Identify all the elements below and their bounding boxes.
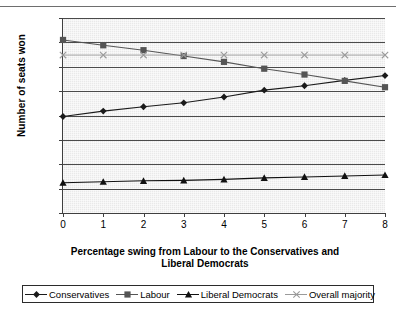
legend-item-labour: Labour	[116, 289, 170, 300]
diamond-marker	[301, 82, 308, 89]
x-tick-label: 2	[132, 219, 156, 230]
legend-label: Overall majority	[309, 289, 375, 300]
legend-label: Conservatives	[49, 289, 109, 300]
series-conservatives	[60, 72, 389, 120]
x-tick-label: 1	[91, 219, 115, 230]
x-tick-mark	[305, 213, 306, 217]
square-marker	[342, 78, 348, 84]
triangle-marker	[185, 291, 192, 298]
diamond-marker	[261, 87, 268, 94]
series-layer	[63, 18, 385, 213]
chart-screenshot: Number of seats won 05010015020025030035…	[0, 0, 396, 320]
x-tick-mark	[224, 213, 225, 217]
x-tick-mark	[345, 213, 346, 217]
square-marker	[100, 42, 106, 48]
x-tick-label: 3	[172, 219, 196, 230]
diamond-marker	[60, 113, 67, 120]
x-tick-mark	[63, 213, 64, 217]
x-axis-title-line1: Percentage swing from Labour to the Cons…	[71, 246, 339, 257]
diamond-marker	[100, 108, 107, 115]
x-tick-mark	[144, 213, 145, 217]
x-tick-mark	[103, 213, 104, 217]
top-divider	[0, 6, 396, 7]
y-axis-title: Number of seats won	[16, 16, 27, 156]
square-marker	[301, 71, 307, 77]
diamond-marker	[382, 72, 389, 79]
legend-label: Liberal Democrats	[201, 289, 278, 300]
legend-key-marker	[32, 290, 41, 299]
legend-item-liberal-democrats: Liberal Democrats	[177, 289, 278, 300]
x-marker	[285, 289, 307, 299]
legend-key-marker	[292, 290, 301, 299]
legend-key-marker	[123, 290, 132, 299]
x-tick-mark	[184, 213, 185, 217]
square-marker	[60, 37, 66, 43]
plot-area: 050100150200250300350400 012345678	[62, 18, 385, 214]
square-marker	[125, 291, 131, 297]
x-tick-mark	[385, 213, 386, 217]
diamond-marker	[180, 99, 187, 106]
series-labour	[60, 37, 388, 90]
x-tick-label: 8	[373, 219, 396, 230]
square-marker	[382, 84, 388, 90]
triangle-marker	[177, 289, 199, 299]
x-tick-label: 0	[51, 219, 75, 230]
square-marker	[261, 66, 267, 72]
square-marker	[116, 289, 138, 299]
series-overall-majority	[60, 52, 388, 58]
x-tick-label: 6	[293, 219, 317, 230]
x-tick-label: 7	[333, 219, 357, 230]
square-marker	[181, 53, 187, 59]
legend-label: Labour	[140, 289, 170, 300]
square-marker	[221, 59, 227, 65]
legend-item-conservatives: Conservatives	[25, 289, 109, 300]
chart-legend: ConservativesLabourLiberal DemocratsOver…	[22, 285, 374, 303]
x-marker	[293, 291, 299, 297]
diamond-marker	[25, 289, 47, 299]
x-tick-mark	[264, 213, 265, 217]
legend-item-overall-majority: Overall majority	[285, 289, 375, 300]
legend-key-marker	[184, 290, 193, 299]
x-axis-title: Percentage swing from Labour to the Cons…	[40, 246, 370, 270]
x-tick-label: 4	[212, 219, 236, 230]
diamond-marker	[221, 94, 228, 101]
chart-container: Number of seats won 05010015020025030035…	[0, 8, 396, 276]
series-liberal-democrats	[59, 171, 388, 185]
diamond-marker	[33, 291, 40, 298]
diamond-marker	[140, 103, 147, 110]
x-axis-title-line2: Liberal Democrats	[161, 258, 248, 269]
x-tick-label: 5	[252, 219, 276, 230]
